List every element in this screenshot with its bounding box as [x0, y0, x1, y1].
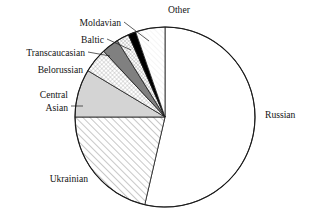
slice-label-other: Other: [168, 4, 191, 15]
pie-slices: [75, 27, 255, 207]
pie-chart-svg: OtherMoldavianBalticTranscaucasianBeloru…: [0, 0, 310, 215]
slice-label-moldavian: Moldavian: [79, 17, 121, 28]
slice-label-baltic: Baltic: [81, 34, 104, 45]
slice-label-ukrainian: Ukrainian: [50, 173, 89, 184]
slice-label-transcaucasian: Transcaucasian: [26, 47, 85, 58]
slice-label-central: Central: [40, 89, 69, 100]
slice-label-russian: Russian: [265, 109, 296, 120]
pie-chart-figure: OtherMoldavianBalticTranscaucasianBeloru…: [0, 0, 310, 215]
slice-label-asian: Asian: [46, 102, 69, 113]
slice-label-belorussian: Belorussian: [38, 64, 84, 75]
